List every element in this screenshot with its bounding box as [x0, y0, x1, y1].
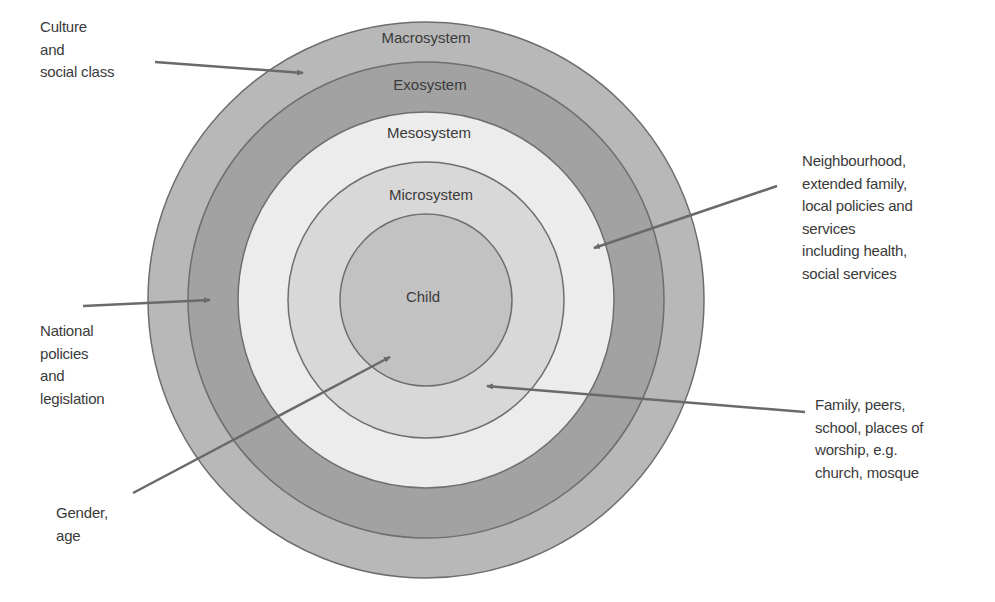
child-label: Child: [406, 288, 440, 305]
gender-annotation: Gender, age: [56, 502, 108, 547]
family-annotation: Family, peers, school, places of worship…: [815, 394, 923, 484]
exosystem-label: Exosystem: [393, 76, 466, 93]
microsystem-label: Microsystem: [389, 186, 473, 203]
mesosystem-label: Mesosystem: [387, 124, 471, 141]
culture-annotation: Culture and social class: [40, 16, 114, 84]
ecological-systems-diagram: Macrosystem Exosystem Mesosystem Microsy…: [0, 0, 995, 602]
neighbourhood-annotation: Neighbourhood, extended family, local po…: [802, 150, 913, 285]
national-policies-annotation: National policies and legislation: [40, 320, 105, 410]
macrosystem-label: Macrosystem: [381, 29, 470, 46]
